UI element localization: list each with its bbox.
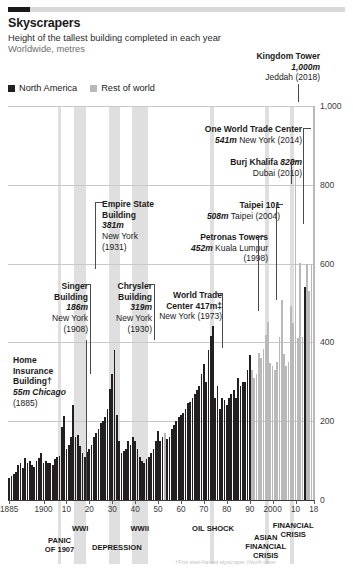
annotation-world-trade-center: World Trade Center 417m‡ New York (1973): [140, 290, 222, 322]
leader-petronas-h: [258, 236, 265, 237]
kingdom-place: Jeddah (2018): [265, 72, 320, 82]
legend-label-rest-of-world: Rest of world: [101, 83, 155, 93]
x-tick-label-1940: 40: [131, 505, 140, 514]
brand-rule: [8, 7, 345, 12]
empire-year: (1931): [102, 242, 127, 252]
x-tick-label-1920: 20: [85, 505, 94, 514]
kingdom-value: 1,000m: [291, 62, 320, 72]
annotation-taipei-101: Taipei 101 508m Taipei (2004): [175, 200, 280, 221]
x-tick-1950: [158, 500, 159, 504]
x-tick-2000: [273, 500, 274, 504]
y-tick-label-1000: 1,000: [320, 101, 342, 111]
leader-home-v: [86, 340, 87, 500]
leader-taipei-v: [276, 204, 277, 300]
event-label-3: WWII: [130, 525, 149, 534]
leader-onewtc-h: [303, 128, 311, 129]
leader-wtc-v: [222, 293, 223, 348]
petronas-place: Kuala Lumpur: [213, 243, 268, 253]
legend-swatch-rest-of-world: [90, 85, 97, 92]
singer-value: 186m: [66, 302, 88, 312]
leader-burj-h: [291, 161, 299, 162]
home-title-1: Home: [13, 355, 37, 365]
chart-page: Skyscrapers Height of the tallest buildi…: [0, 0, 353, 570]
home-value: 55m Chicago: [13, 387, 66, 397]
singer-title-2: Building: [54, 292, 88, 302]
brand-rule-accent: [8, 7, 30, 12]
wtc-title-1: World Trade: [173, 290, 222, 300]
event-label-6: FINANCIAL CRISIS: [273, 522, 314, 540]
empire-title-2: Building: [102, 210, 136, 220]
onewtc-title: One World Trade Center: [205, 124, 302, 134]
legend-swatch-north-america: [8, 85, 15, 92]
leader-singer-v: [90, 284, 91, 374]
annotation-kingdom-tower: Kingdom Tower 1,000m Jeddah (2018): [215, 51, 320, 83]
legend-label-north-america: North America: [19, 83, 77, 93]
x-tick-1940: [135, 500, 136, 504]
burj-title: Burj Khalifa: [230, 157, 280, 167]
page-title: Skyscrapers: [8, 16, 80, 30]
leader-chrysler-v: [154, 284, 155, 340]
leader-taipei-h: [276, 204, 283, 205]
x-tick-1920: [89, 500, 90, 504]
x-tick-label-2018: 18: [309, 505, 318, 514]
chart-subtitle: Height of the tallest building completed…: [8, 33, 221, 43]
legend: North America Rest of world: [8, 83, 155, 93]
chart-units: Worldwide, metres: [8, 44, 85, 54]
x-tick-1910: [66, 500, 67, 504]
x-tick-2010: [296, 500, 297, 504]
x-tick-label-1960: 60: [176, 505, 185, 514]
leader-burj-v: [291, 161, 292, 184]
legend-item-rest-of-world: Rest of world: [90, 83, 155, 93]
home-year: (1885): [13, 398, 38, 408]
leader-empire-h: [95, 202, 103, 203]
legend-item-north-america: North America: [8, 83, 77, 93]
taipei-value: 508m: [207, 211, 229, 221]
x-tick-label-2010: 10: [291, 505, 300, 514]
y-tick-label-600: 600: [320, 259, 334, 269]
event-label-0: PANIC OF 1907: [45, 537, 75, 555]
x-tick-label-1930: 30: [108, 505, 117, 514]
petronas-value: 452m: [191, 243, 213, 253]
x-tick-label-1910: 10: [62, 505, 71, 514]
empire-city: New York: [102, 231, 138, 241]
y-tick-label-400: 400: [320, 337, 334, 347]
x-tick-1900: [44, 500, 45, 504]
taipei-place: Taipei (2004): [229, 211, 280, 221]
burj-place: Dubai (2010): [253, 168, 302, 178]
singer-year: (1908): [63, 324, 88, 334]
event-label-4: OIL SHOCK: [192, 525, 234, 534]
singer-city: New York: [52, 313, 88, 323]
petronas-year: (1998): [243, 253, 268, 263]
annotation-home-insurance-building: Home Insurance Building† 55m Chicago (18…: [13, 355, 79, 408]
x-tick-label-1900: 1900: [34, 505, 52, 514]
annotation-burj-khalifa: Burj Khalifa 828m Dubai (2010): [190, 157, 302, 178]
x-tick-label-1885: 1885: [0, 505, 18, 514]
x-tick-1990: [250, 500, 251, 504]
empire-title-1: Empire State: [102, 199, 154, 209]
annotation-one-world-trade-center: One World Trade Center 541m New York (20…: [176, 124, 302, 145]
annotation-empire-state-building: Empire State Building 381m New York (193…: [102, 199, 164, 252]
footnote: †First steel-framed skyscraper ‡North to…: [175, 559, 350, 566]
x-tick-1960: [181, 500, 182, 504]
x-tick-label-1980: 80: [222, 505, 231, 514]
leader-onewtc-v: [303, 128, 304, 224]
x-tick-label-1990: 90: [245, 505, 254, 514]
empire-value: 381m: [102, 220, 124, 230]
y-tick-label-800: 800: [320, 180, 334, 190]
event-label-1: WWI: [72, 525, 88, 534]
home-title-3: Building†: [13, 376, 52, 386]
x-tick-1970: [204, 500, 205, 504]
y-tick-label-200: 200: [320, 416, 334, 426]
onewtc-place: New York (2014): [237, 135, 302, 145]
kingdom-title: Kingdom Tower: [256, 51, 320, 61]
leader-petronas-v: [258, 236, 259, 311]
leader-kingdom-tower: [298, 84, 299, 102]
taipei-title: Taipei 101: [240, 200, 280, 210]
x-tick-label-1970: 70: [199, 505, 208, 514]
x-tick-1980: [227, 500, 228, 504]
bar-2018: [313, 106, 315, 500]
x-tick-2018: [314, 500, 315, 504]
event-label-2: DEPRESSION: [92, 544, 142, 553]
wtc-title-2: Center 417m‡: [166, 301, 222, 311]
y-tick-label-0: 0: [320, 495, 325, 505]
